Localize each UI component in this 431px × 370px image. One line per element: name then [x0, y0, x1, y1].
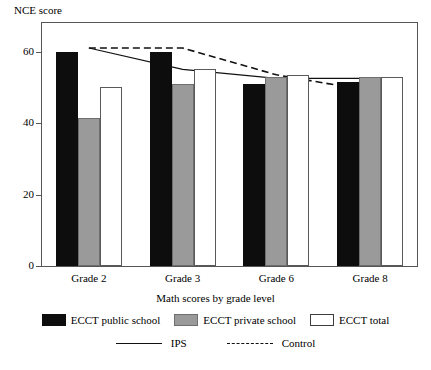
legend-swatch-icon — [310, 314, 334, 326]
x-tick-label: Grade 2 — [47, 272, 131, 284]
x-axis-title: Math scores by grade level — [0, 292, 431, 304]
y-tick-label: 20 — [0, 189, 34, 200]
line-series — [89, 48, 370, 78]
legend-line-entries: IPSControl — [0, 337, 431, 349]
legend-item: ECCT public school — [42, 314, 161, 326]
legend-line-sample-icon — [116, 343, 162, 344]
y-tick-label: 40 — [0, 117, 34, 128]
legend-bar-entries: ECCT public schoolECCT private schoolECC… — [0, 314, 431, 326]
y-tick-label: 0 — [0, 260, 34, 271]
x-tick-label: Grade 3 — [141, 272, 225, 284]
legend-label: ECCT private school — [203, 314, 296, 326]
line-series — [89, 48, 370, 91]
bar — [287, 75, 309, 266]
y-tick-mark — [36, 123, 41, 124]
legend-line-item: Control — [227, 337, 316, 349]
legend-item: ECCT private school — [174, 314, 296, 326]
legend-label: Control — [282, 337, 316, 349]
y-tick-mark — [36, 266, 41, 267]
x-tick-label: Grade 6 — [234, 272, 318, 284]
legend-line-sample-icon — [227, 343, 273, 344]
x-tick-label: Grade 8 — [328, 272, 412, 284]
legend-label: ECCT public school — [71, 314, 161, 326]
bar — [150, 52, 172, 266]
legend-swatch-icon — [174, 314, 198, 326]
bar — [78, 118, 100, 266]
legend-label: IPS — [171, 337, 187, 349]
bar — [194, 69, 216, 266]
chart-figure: NCE score 0204060 Grade 2Grade 3Grade 6G… — [0, 0, 431, 370]
bar — [265, 77, 287, 266]
bar — [172, 84, 194, 266]
legend-line-item: IPS — [116, 337, 187, 349]
legend-swatch-icon — [42, 314, 66, 326]
bar — [359, 77, 381, 266]
y-axis-label: NCE score — [14, 4, 62, 17]
y-tick-label: 60 — [0, 46, 34, 57]
bar — [56, 52, 78, 266]
bar — [100, 87, 122, 266]
legend-label: ECCT total — [339, 314, 389, 326]
y-tick-mark — [36, 52, 41, 53]
legend-item: ECCT total — [310, 314, 389, 326]
y-tick-mark — [36, 195, 41, 196]
chart-legend: ECCT public schoolECCT private schoolECC… — [0, 314, 431, 349]
bar — [381, 77, 403, 266]
bar — [337, 82, 359, 266]
bar — [243, 84, 265, 266]
